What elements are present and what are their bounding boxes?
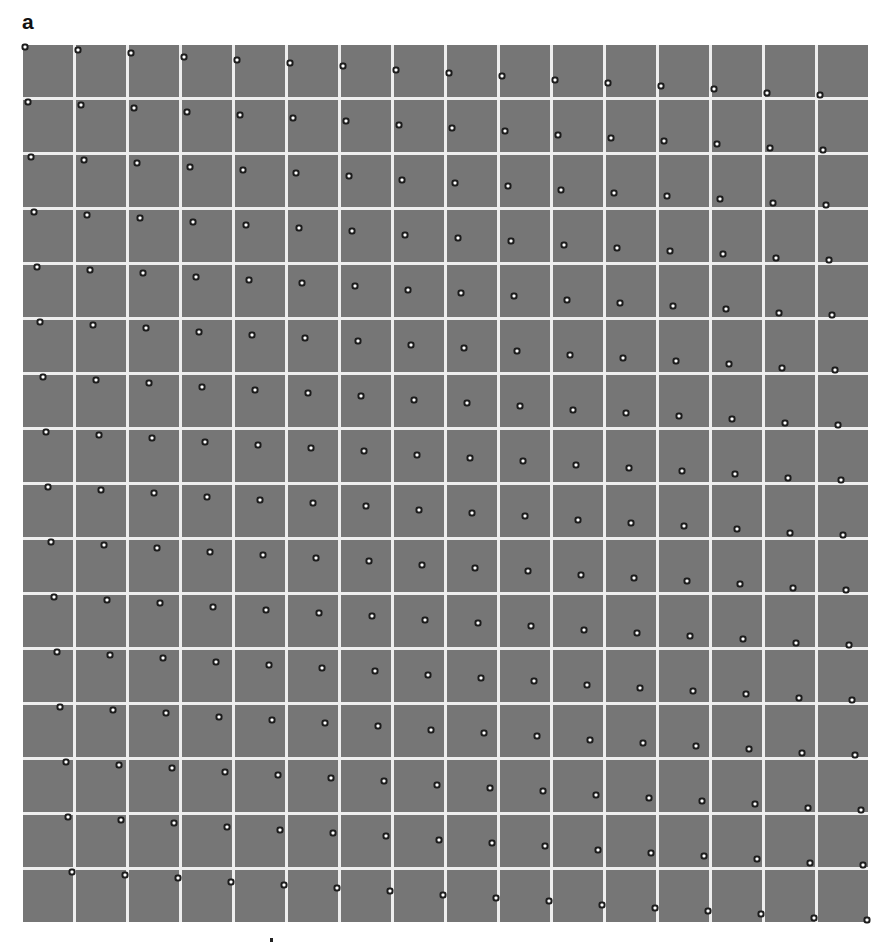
- stimulus-dot: [636, 631, 639, 634]
- image-tile: [765, 485, 815, 537]
- image-tile: [23, 100, 73, 152]
- image-tile: [23, 815, 73, 867]
- image-tile: [500, 155, 550, 207]
- stimulus-dot: [633, 576, 636, 579]
- image-tile: [341, 155, 391, 207]
- stimulus-dot: [736, 528, 739, 531]
- image-tile: [447, 430, 497, 482]
- stimulus-dot: [859, 809, 862, 812]
- stimulus-dot: [474, 567, 477, 570]
- image-tile: [235, 650, 285, 702]
- stimulus-dot: [109, 654, 112, 657]
- stimulus-dot: [292, 117, 295, 120]
- stimulus-dot: [700, 800, 703, 803]
- stimulus-dot: [282, 884, 285, 887]
- stimulus-dot: [722, 253, 725, 256]
- image-tile: [394, 265, 444, 317]
- image-tile: [712, 210, 762, 262]
- image-tile: [288, 210, 338, 262]
- image-tile: [182, 595, 232, 647]
- stimulus-dot: [382, 780, 385, 783]
- stimulus-dot: [515, 350, 518, 353]
- image-tile: [818, 815, 868, 867]
- image-tile: [553, 265, 603, 317]
- stimulus-dot: [600, 903, 603, 906]
- stimulus-dot: [435, 783, 438, 786]
- image-tile: [712, 100, 762, 152]
- stimulus-dot: [862, 864, 865, 867]
- image-tile: [500, 540, 550, 592]
- image-tile: [182, 375, 232, 427]
- image-tile: [818, 760, 868, 812]
- image-tile: [394, 375, 444, 427]
- stimulus-dot: [86, 214, 89, 217]
- image-tile: [553, 650, 603, 702]
- stimulus-dot: [669, 250, 672, 253]
- image-tile: [818, 100, 868, 152]
- image-tile: [394, 540, 444, 592]
- image-tile: [553, 320, 603, 372]
- image-tile: [394, 100, 444, 152]
- image-tile: [606, 595, 656, 647]
- stimulus-dot: [24, 45, 27, 48]
- image-tile: [76, 815, 126, 867]
- stimulus-dot: [448, 72, 451, 75]
- stimulus-dot: [200, 385, 203, 388]
- stimulus-dot: [683, 525, 686, 528]
- stimulus-dot: [480, 677, 483, 680]
- stimulus-dot: [695, 745, 698, 748]
- image-tile: [712, 815, 762, 867]
- image-tile: [553, 45, 603, 97]
- stimulus-dot: [103, 544, 106, 547]
- stimulus-dot: [809, 861, 812, 864]
- image-tile: [553, 155, 603, 207]
- image-tile: [288, 430, 338, 482]
- stimulus-dot: [117, 764, 120, 767]
- image-tile: [76, 210, 126, 262]
- image-tile: [500, 210, 550, 262]
- image-tile: [182, 155, 232, 207]
- stimulus-dot: [491, 842, 494, 845]
- image-tile: [235, 45, 285, 97]
- image-tile: [553, 430, 603, 482]
- stimulus-dot: [454, 182, 457, 185]
- stimulus-dot: [865, 919, 868, 922]
- image-tile: [500, 485, 550, 537]
- stimulus-dot: [792, 586, 795, 589]
- stimulus-dot: [586, 683, 589, 686]
- stimulus-dot: [462, 347, 465, 350]
- stimulus-dot: [130, 52, 133, 55]
- image-tile: [606, 485, 656, 537]
- stimulus-dot: [839, 479, 842, 482]
- stimulus-dot: [775, 256, 778, 259]
- image-tile: [23, 375, 73, 427]
- stimulus-dot: [557, 133, 560, 136]
- stimulus-dot: [730, 418, 733, 421]
- stimulus-dot: [583, 628, 586, 631]
- image-tile: [765, 320, 815, 372]
- stimulus-dot: [354, 285, 357, 288]
- image-tile: [129, 485, 179, 537]
- image-tile: [659, 265, 709, 317]
- stimulus-dot: [541, 790, 544, 793]
- stimulus-dot: [825, 204, 828, 207]
- stimulus-dot: [477, 622, 480, 625]
- stimulus-dot: [748, 748, 751, 751]
- image-tile: [394, 705, 444, 757]
- stimulus-dot: [616, 246, 619, 249]
- image-tile: [447, 485, 497, 537]
- image-tile: [765, 870, 815, 922]
- stimulus-dot: [639, 686, 642, 689]
- stimulus-dot: [33, 210, 36, 213]
- stimulus-dot: [460, 292, 463, 295]
- image-tile: [500, 430, 550, 482]
- image-tile: [447, 210, 497, 262]
- stimulus-dot: [142, 272, 145, 275]
- stimulus-dot: [59, 705, 62, 708]
- image-tile: [606, 210, 656, 262]
- image-tile: [606, 100, 656, 152]
- stimulus-dot: [77, 49, 80, 52]
- stimulus-dot: [848, 644, 851, 647]
- stimulus-dot: [206, 495, 209, 498]
- image-tile: [447, 100, 497, 152]
